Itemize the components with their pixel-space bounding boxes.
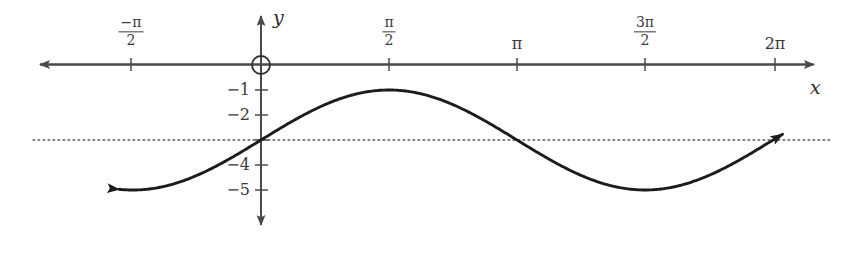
- y-tick-label--5: −5: [226, 182, 250, 198]
- y-axis-label: y: [273, 8, 284, 27]
- x-tick-label-3pi-over-2-numerator: 3π: [634, 15, 656, 32]
- sine-graph-figure: −π 2 π 2 π 3π 2 2π −1 −2 −4 −5 y x: [0, 0, 850, 260]
- x-tick-label-pi: π: [512, 36, 523, 52]
- x-tick-label-2pi: 2π: [765, 36, 786, 52]
- y-tick-label--1: −1: [226, 82, 250, 98]
- y-tick-label--2: −2: [226, 107, 250, 123]
- x-tick-label-pi-over-2-denominator: 2: [382, 32, 395, 48]
- x-tick-label-3pi-over-2: 3π 2: [634, 15, 656, 48]
- y-tick-label--4: −4: [226, 157, 250, 173]
- x-tick-label-pi-over-2: π 2: [382, 15, 395, 48]
- x-tick-label--pi-over-2: −π 2: [119, 15, 144, 48]
- x-tick-label-pi-over-2-numerator: π: [382, 15, 395, 32]
- x-tick-label--pi-over-2-denominator: 2: [119, 32, 144, 48]
- x-tick-label--pi-over-2-numerator: −π: [119, 15, 144, 32]
- x-tick-label-3pi-over-2-denominator: 2: [634, 32, 656, 48]
- x-axis-label: x: [810, 78, 821, 97]
